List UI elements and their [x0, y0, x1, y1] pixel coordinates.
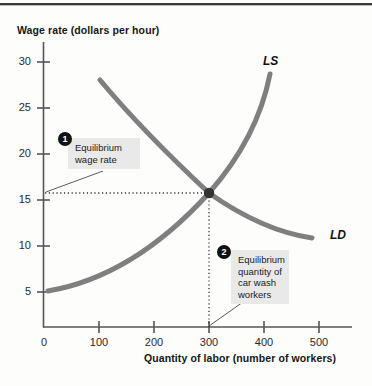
chart-plot-area	[0, 0, 372, 386]
callout-2-leader-line	[209, 302, 243, 326]
y-tick-label-25: 25	[9, 101, 31, 113]
callout-badge-1: 1	[58, 132, 72, 146]
callout-1-line-1: Equilibrium	[75, 142, 134, 154]
callout-2-line-4: workers	[238, 289, 283, 301]
x-tick-label-500: 500	[304, 336, 334, 348]
callout-2-line-2: quantity of	[238, 266, 283, 278]
y-tick-label-5: 5	[9, 285, 31, 297]
equilibrium-point-marker	[204, 188, 214, 198]
callout-2-line-3: car wash	[238, 277, 283, 289]
callout-1-leader-line	[46, 171, 103, 192]
callout-equilibrium-wage-rate: Equilibrium wage rate	[68, 138, 140, 169]
y-tick-label-15: 15	[9, 193, 31, 205]
curve-label-labor-demand: LD	[330, 228, 346, 242]
x-tick-label-100: 100	[84, 336, 114, 348]
y-tick-label-10: 10	[9, 239, 31, 251]
x-tick-label-0: 0	[29, 336, 59, 348]
callout-1-line-2: wage rate	[75, 154, 134, 166]
callout-badge-2: 2	[217, 245, 231, 259]
y-tick-label-30: 30	[9, 55, 31, 67]
y-tick-label-20: 20	[9, 147, 31, 159]
callout-equilibrium-quantity: Equilibrium quantity of car wash workers	[231, 250, 289, 304]
x-tick-label-400: 400	[249, 336, 279, 348]
x-axis-title: Quantity of labor (number of workers)	[144, 352, 336, 364]
x-tick-label-200: 200	[139, 336, 169, 348]
x-tick-label-300: 300	[194, 336, 224, 348]
curve-label-labor-supply: LS	[263, 54, 278, 68]
y-axis-title: Wage rate (dollars per hour)	[17, 24, 159, 36]
callout-2-line-1: Equilibrium	[238, 254, 283, 266]
figure-container: Wage rate (dollars per hour) Quantity of…	[0, 0, 372, 386]
